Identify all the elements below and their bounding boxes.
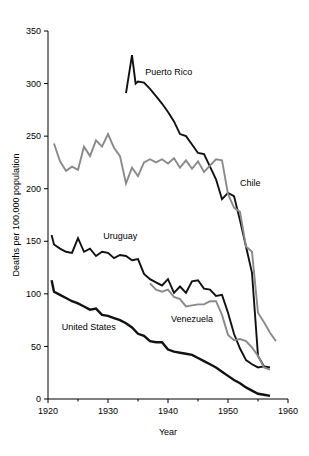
y-axis-tick-label: 250 [26,131,41,141]
y-axis-tick-label: 0 [36,394,41,404]
x-axis-tick-label: 1940 [158,406,178,416]
y-axis-tick-label: 300 [26,79,41,89]
x-axis-tick-label: 1960 [278,406,298,416]
y-axis-tick-label: 150 [26,236,41,246]
y-axis-tick-label: 350 [26,26,41,36]
y-axis-tick-label: 200 [26,184,41,194]
y-axis-tick-label: 50 [31,342,41,352]
x-axis-tick-label: 1930 [98,406,118,416]
x-axis-title: Year [159,427,177,437]
line-chart: 050100150200250300350 192019301940195019… [0,0,309,456]
chart-figure: 050100150200250300350 192019301940195019… [0,0,309,456]
series-label-uruguay: Uruguay [103,231,138,241]
y-axis-tick-label: 100 [26,289,41,299]
y-axis-title: Deaths per 100,000 population [11,153,21,276]
x-axis-tick-label: 1920 [38,406,58,416]
series-label-chile: Chile [240,178,261,188]
series-label-puerto-rico: Puerto Rico [145,67,192,77]
series-label-united-states: United States [62,322,117,332]
series-label-venezuela: Venezuela [171,314,213,324]
x-axis-tick-label: 1950 [218,406,238,416]
